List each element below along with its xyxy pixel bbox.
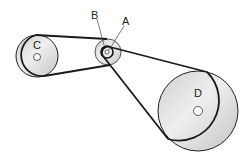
pulley-diagram: B A C D (0, 0, 249, 165)
label-c: C (33, 39, 41, 51)
pulley-a-hole (105, 50, 109, 54)
label-b: B (91, 9, 98, 21)
pulley-c-hole (34, 54, 41, 61)
pulley-d-hole (194, 107, 203, 116)
diagram-canvas: B A C D (0, 0, 249, 165)
label-d: D (194, 87, 202, 99)
label-a: A (122, 15, 130, 27)
